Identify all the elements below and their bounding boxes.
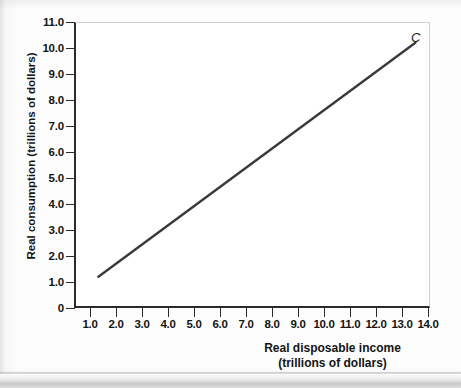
y-tick-label-text: 0	[24, 303, 64, 315]
y-tick-mark-0	[66, 308, 75, 309]
x-tick-mark-13	[402, 308, 403, 317]
x-tick-mark-7	[246, 308, 247, 317]
x-tick-mark-9	[298, 308, 299, 317]
x-tick-mark-14	[428, 308, 429, 317]
x-axis-title-line1: Real disposable income	[210, 341, 455, 356]
y-axis-title: Real consumption (trillions of dollars)	[25, 31, 37, 281]
x-tick-mark-5	[194, 308, 195, 317]
x-axis-title: Real disposable income (trillions of dol…	[210, 341, 455, 371]
x-tick-mark-11	[350, 308, 351, 317]
x-tick-mark-12	[376, 308, 377, 317]
scanned-figure-page: 11.0 10.0 9.0 8.0 7.0 6.0 5.0 4.0	[0, 0, 461, 388]
x-tick-mark-10	[324, 308, 325, 317]
x-tick-mark-1	[90, 308, 91, 317]
curve-label-c: C	[411, 30, 420, 45]
y-tick-label-text: 11.0	[24, 17, 64, 29]
consumption-function-line	[98, 43, 415, 277]
consumption-function-chart: 11.0 10.0 9.0 8.0 7.0 6.0 5.0 4.0	[0, 0, 461, 388]
x-axis-title-line2: (trillions of dollars)	[210, 356, 455, 371]
x-tick-mark-3	[142, 308, 143, 317]
consumption-line-series	[74, 22, 430, 308]
x-tick-mark-6	[220, 308, 221, 317]
page-bottom-edge	[0, 374, 461, 388]
x-tick-mark-8	[272, 308, 273, 317]
x-tick-label-14: 14.0	[408, 319, 448, 331]
x-tick-mark-4	[168, 308, 169, 317]
x-tick-mark-2	[116, 308, 117, 317]
